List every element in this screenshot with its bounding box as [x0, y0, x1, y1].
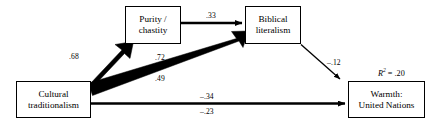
edge-label-cultural-to-biblical-lower: .49: [155, 74, 165, 83]
node-label-line1: Cultural: [38, 89, 68, 100]
edge-label-cultural-to-warmth-upper: –.34: [200, 92, 214, 101]
node-label-line2: chastity: [139, 25, 168, 36]
node-warmth-united-nations[interactable]: Warmth: United Nations: [348, 81, 425, 118]
node-label-line2: literalism: [256, 25, 291, 36]
edge-label-biblical-to-warmth: –.12: [327, 58, 341, 67]
node-label-line1: Purity /: [139, 14, 166, 25]
node-label-line2: United Nations: [359, 100, 415, 111]
node-label-line2: traditionalism: [28, 100, 79, 111]
edge-label-cultural-to-warmth-lower: –.23: [200, 107, 214, 116]
node-purity-chastity[interactable]: Purity / chastity: [125, 6, 181, 44]
r-squared-value: .20: [395, 69, 405, 78]
node-label-line1: Warmth:: [371, 89, 403, 100]
r-squared-equals: =: [386, 69, 395, 78]
r-squared-annotation: R2 = .20: [378, 67, 405, 78]
node-cultural-traditionalism[interactable]: Cultural traditionalism: [16, 81, 91, 118]
edge-label-cultural-to-biblical-upper: .72: [155, 53, 165, 62]
node-label-line1: Biblical: [258, 14, 287, 25]
path-diagram-canvas: Cultural traditionalism Purity / chastit…: [0, 0, 429, 124]
edge-label-cultural-to-purity: .68: [69, 52, 79, 61]
edge-label-purity-to-biblical: .33: [206, 11, 216, 20]
node-biblical-literalism[interactable]: Biblical literalism: [245, 6, 301, 44]
